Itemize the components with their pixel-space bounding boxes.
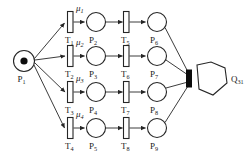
place-P7[interactable]: [148, 47, 167, 66]
rate-label-mu1: μ1: [75, 3, 84, 14]
transition-T1-label: T1: [65, 35, 74, 46]
transition-T7[interactable]: [124, 82, 130, 103]
place-P7-label: P7: [150, 69, 158, 80]
rate-label-mu4: μ4: [75, 109, 84, 120]
transition-T8[interactable]: [124, 118, 130, 139]
arc-P1-T2: [35, 56, 65, 60]
petri-net-diagram: P1 μ1 T1 P2 T5 P6 μ2 T2 P3 T6 P7: [0, 0, 244, 161]
sink-Q31[interactable]: Q31: [197, 62, 244, 95]
place-P1-label: P1: [18, 74, 26, 85]
place-P5-label: P5: [89, 141, 97, 152]
transition-T2-label: T2: [65, 69, 74, 80]
place-P6[interactable]: [148, 13, 167, 32]
join-transition[interactable]: [187, 70, 192, 87]
transition-T8-label: T8: [121, 141, 130, 152]
transition-T1[interactable]: [68, 12, 74, 33]
place-P4-label: P4: [89, 105, 97, 116]
arc-P6-join: [165, 28, 188, 73]
rate-label-mu2: μ2: [75, 37, 84, 48]
transition-T6[interactable]: [124, 46, 130, 67]
transition-T3[interactable]: [68, 82, 74, 103]
place-P2-label: P2: [89, 35, 97, 46]
place-P6-label: P6: [150, 35, 158, 46]
place-P1[interactable]: P1: [14, 51, 35, 86]
transition-T5-label: T5: [121, 35, 130, 46]
arc-P1-T1: [35, 23, 65, 59]
transition-T2[interactable]: [68, 46, 74, 67]
transition-T4-label: T4: [65, 141, 74, 152]
arc-P7-join: [166, 60, 188, 75]
place-P4[interactable]: [87, 83, 106, 102]
transition-T3-label: T3: [65, 105, 74, 116]
arc-P9-join: [165, 86, 188, 123]
place-P5[interactable]: [87, 119, 106, 138]
transition-T4[interactable]: [68, 118, 74, 139]
place-P8-label: P8: [150, 105, 158, 116]
transition-T7-label: T7: [121, 105, 130, 116]
place-P3[interactable]: [87, 47, 106, 66]
place-P8[interactable]: [148, 83, 167, 102]
join-bar: [187, 70, 192, 87]
place-P9-label: P9: [150, 141, 158, 152]
transition-T6-label: T6: [121, 69, 130, 80]
place-P9[interactable]: [148, 119, 167, 138]
arc-P8-join: [166, 82, 188, 88]
arc-P1-T4: [34, 65, 65, 128]
rate-label-mu3: μ3: [75, 73, 84, 84]
arc-P1-T3: [35, 63, 65, 92]
sink-Q31-hexagon: [197, 62, 227, 95]
diagram-canvas: P1 μ1 T1 P2 T5 P6 μ2 T2 P3 T6 P7: [0, 0, 244, 161]
transition-T5[interactable]: [124, 12, 130, 33]
arcs-from-P1: [34, 23, 65, 128]
sink-Q31-label: Q31: [231, 74, 244, 85]
place-P3-label: P3: [89, 69, 97, 80]
place-P1-token: [20, 57, 27, 64]
place-P2[interactable]: [87, 13, 106, 32]
